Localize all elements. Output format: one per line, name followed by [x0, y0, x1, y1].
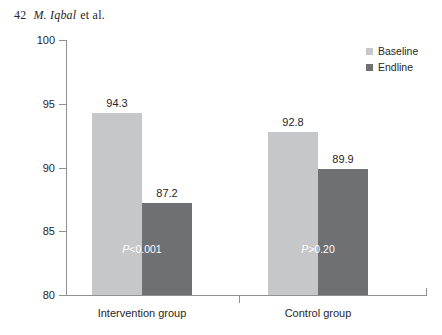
- y-axis-tick-label: 85: [0, 225, 55, 237]
- x-axis-mid-tick: [239, 296, 240, 303]
- legend: Baseline Endline: [366, 44, 418, 76]
- running-head-suffix: et al.: [80, 8, 105, 22]
- p-value-annotation: P>0.20: [268, 243, 368, 255]
- y-axis-tick-label: 80: [0, 289, 55, 301]
- legend-item-baseline: Baseline: [366, 44, 418, 58]
- plot-area: Percentage of prescriptions 94.387.2P<0.…: [66, 40, 427, 295]
- running-head: 42M. Iqbalet al.: [14, 8, 105, 23]
- y-axis-tick-label: 95: [0, 98, 55, 110]
- x-axis-category-label: Intervention group: [52, 307, 232, 319]
- bar-baseline-control: [268, 132, 318, 295]
- bar-value-label: 92.8: [268, 116, 318, 128]
- y-axis-tick: [59, 104, 66, 105]
- y-axis-tick: [59, 231, 66, 232]
- running-head-author: M. Iqbal: [33, 8, 76, 22]
- legend-swatch-baseline: [366, 48, 373, 55]
- legend-swatch-endline: [366, 64, 373, 71]
- legend-label-baseline: Baseline: [378, 45, 418, 57]
- y-axis-tick: [59, 295, 66, 296]
- bar-baseline-intervention: [92, 113, 142, 295]
- y-axis-tick: [59, 40, 66, 41]
- legend-label-endline: Endline: [378, 61, 413, 73]
- figure-page: 42M. Iqbalet al. 80859095100 Percentage …: [0, 0, 442, 335]
- legend-item-endline: Endline: [366, 60, 418, 74]
- y-axis-tick-label: 100: [0, 34, 55, 46]
- bar-value-label: 94.3: [92, 97, 142, 109]
- bar-endline-control: [318, 169, 368, 295]
- p-value-annotation: P<0.001: [92, 243, 192, 255]
- page-folio: 42: [14, 8, 26, 22]
- x-axis-line: [66, 295, 427, 296]
- y-axis-tick-label: 90: [0, 162, 55, 174]
- y-axis-tick: [59, 168, 66, 169]
- bar-value-label: 89.9: [318, 153, 368, 165]
- x-axis-category-label: Control group: [228, 307, 408, 319]
- bar-value-label: 87.2: [142, 187, 192, 199]
